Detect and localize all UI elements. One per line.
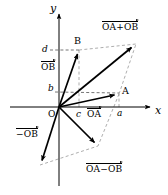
vector-label-OA-minus-OB: OA−OB — [86, 165, 122, 174]
vector-label-OB-text: OB — [41, 63, 55, 72]
vector-label-OA-plus-OB: OA+OB — [102, 23, 138, 32]
guide-B-to-sum — [79, 44, 136, 50]
guide-A-to-diff — [98, 94, 119, 146]
origin-label: O — [48, 110, 55, 119]
vector-arrow-group — [42, 48, 132, 161]
vector-label-OA-minus-OB-text: OA−OB — [86, 165, 122, 174]
vector-label-OA-text: OA — [87, 110, 101, 119]
vector-diagram-figure: y x O d b c a B A OA OB OA+OB OA−OB −OB — [0, 0, 168, 195]
point-label-B: B — [74, 36, 81, 46]
tick-label-b: b — [48, 84, 54, 93]
tick-label-d: d — [42, 45, 48, 54]
point-label-A: A — [122, 86, 129, 96]
vector-label-OA-plus-OB-text: OA+OB — [102, 23, 138, 32]
vector-label-OA: OA — [87, 110, 101, 119]
vector-graphics-canvas — [0, 0, 168, 195]
tick-label-c: c — [76, 110, 81, 119]
x-axis-label: x — [155, 105, 161, 116]
tick-label-a: a — [117, 109, 122, 118]
vector-label-OB: OB — [41, 63, 55, 72]
vector-label-minus-OB: −OB — [16, 130, 38, 139]
y-axis-label: y — [50, 3, 56, 14]
vector-label-minus-OB-text: −OB — [16, 130, 38, 139]
